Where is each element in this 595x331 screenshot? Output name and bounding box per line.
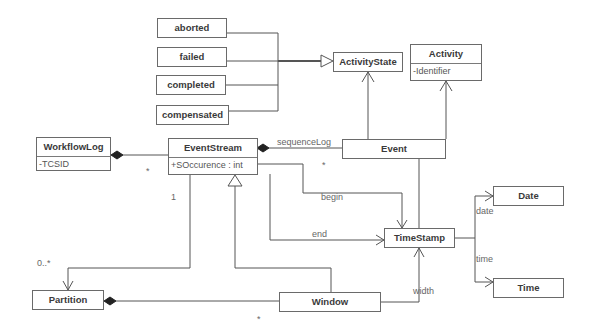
generalization-arrow-activitystate xyxy=(321,55,333,67)
label-date: date xyxy=(476,206,494,216)
class-name: failed xyxy=(158,48,226,66)
multiplicity-zero-many: 0..* xyxy=(37,258,51,268)
class-name: compensated xyxy=(157,106,228,124)
class-name: Partition xyxy=(33,291,103,309)
class-name: EventStream xyxy=(169,139,257,157)
multiplicity-one: 1 xyxy=(171,192,176,202)
class-partition[interactable]: Partition xyxy=(32,290,104,310)
class-name: Date xyxy=(494,187,563,205)
label-begin: begin xyxy=(321,192,343,202)
composition-diamond-workflowlog xyxy=(111,151,123,159)
generalization-arrow-eventstream xyxy=(228,175,242,186)
class-time[interactable]: Time xyxy=(493,278,564,298)
edge-aborted xyxy=(227,33,278,61)
multiplicity-star-sequencelog: * xyxy=(322,160,326,170)
class-eventstream[interactable]: EventStream +SOccurence : int xyxy=(168,138,258,175)
class-compensated[interactable]: compensated xyxy=(156,105,229,125)
class-name: Time xyxy=(494,279,563,297)
class-name: completed xyxy=(157,76,225,94)
label-time: time xyxy=(476,254,493,264)
multiplicity-star-workflowlog: * xyxy=(146,166,150,176)
label-sequencelog: sequenceLog xyxy=(277,137,331,147)
class-event[interactable]: Event xyxy=(342,139,446,159)
class-name: WorkflowLog xyxy=(37,138,110,156)
label-end: end xyxy=(312,229,327,239)
class-name: aborted xyxy=(158,19,226,37)
class-failed[interactable]: failed xyxy=(157,47,227,67)
class-attribute: -Identifier xyxy=(411,63,481,79)
class-attribute: +SOccurence : int xyxy=(169,157,257,173)
class-completed[interactable]: completed xyxy=(156,75,226,95)
class-name: TimeStamp xyxy=(385,229,454,247)
multiplicity-star-window: * xyxy=(257,314,261,324)
class-name: Activity xyxy=(411,45,481,63)
class-name: Event xyxy=(343,140,445,158)
class-attribute: -TCSID xyxy=(37,156,110,172)
class-window[interactable]: Window xyxy=(279,292,381,312)
class-workflowlog[interactable]: WorkflowLog -TCSID xyxy=(36,137,111,171)
class-date[interactable]: Date xyxy=(493,186,564,206)
composition-diamond-eventstream xyxy=(257,144,269,152)
label-width: width xyxy=(413,286,434,296)
class-aborted[interactable]: aborted xyxy=(157,18,227,38)
edge-compensated xyxy=(229,61,278,111)
class-activitystate[interactable]: ActivityState xyxy=(333,52,403,72)
class-timestamp[interactable]: TimeStamp xyxy=(384,228,455,248)
composition-diamond-partition xyxy=(104,297,116,305)
class-name: ActivityState xyxy=(334,53,402,71)
class-name: Window xyxy=(280,293,380,311)
class-activity[interactable]: Activity -Identifier xyxy=(410,44,482,81)
